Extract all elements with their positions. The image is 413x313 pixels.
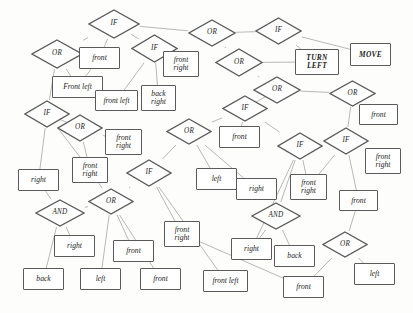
node-label: IF: [145, 169, 152, 177]
node-label: OR: [75, 124, 85, 132]
edge: [140, 26, 188, 30]
edge: [102, 215, 109, 268]
node-label: IF: [151, 45, 158, 53]
node-label: IF: [110, 20, 117, 28]
edge: [86, 69, 91, 76]
node-label: TURN LEFT: [306, 54, 327, 70]
edge: [302, 37, 350, 49]
value-node-front-right[interactable]: front right: [105, 129, 142, 155]
node-label: OR: [184, 128, 194, 136]
decision-node-if[interactable]: IF: [255, 17, 302, 45]
decision-node-or[interactable]: OR: [57, 114, 103, 142]
node-label: front: [126, 247, 141, 255]
node-label: right: [249, 185, 264, 193]
node-label: IF: [342, 137, 349, 145]
node-label: front: [153, 275, 168, 283]
node-label: back: [36, 275, 50, 283]
decision-node-or[interactable]: OR: [322, 231, 368, 258]
decision-node-or[interactable]: OR: [215, 48, 263, 77]
node-label: OR: [207, 29, 217, 37]
value-node-right[interactable]: right: [236, 178, 277, 200]
value-node-right[interactable]: right: [231, 238, 272, 260]
value-node-right[interactable]: right: [18, 169, 59, 191]
node-label: front: [296, 283, 311, 291]
node-label: front right: [83, 162, 98, 178]
edge: [104, 39, 107, 47]
edge: [162, 145, 176, 159]
decision-node-and[interactable]: AND: [251, 202, 301, 230]
node-label: OR: [272, 86, 282, 94]
value-node-left[interactable]: left: [80, 268, 121, 290]
edge: [314, 258, 332, 276]
decision-node-and[interactable]: AND: [35, 199, 85, 227]
edge: [212, 118, 222, 122]
value-node-front[interactable]: front: [79, 47, 120, 69]
value-node-front[interactable]: front: [113, 240, 154, 262]
node-label: AND: [53, 209, 68, 217]
node-label: front: [351, 197, 366, 205]
edge: [83, 142, 87, 157]
node-label: OR: [234, 59, 244, 67]
node-label: front right: [174, 56, 189, 72]
node-label: front: [232, 133, 247, 141]
value-node-front-left[interactable]: front left: [95, 90, 138, 111]
value-node-right[interactable]: right: [54, 235, 95, 257]
value-node-front[interactable]: front: [283, 276, 324, 298]
node-label: AND: [269, 212, 284, 220]
value-node-front[interactable]: front: [140, 268, 181, 290]
value-node-front-left[interactable]: front left: [203, 270, 248, 292]
decision-node-or[interactable]: OR: [188, 19, 236, 47]
node-label: MOVE: [359, 51, 382, 59]
value-node-back[interactable]: back: [274, 245, 315, 267]
decision-node-if[interactable]: IF: [126, 159, 172, 187]
value-node-front[interactable]: front: [339, 190, 378, 211]
edge: [349, 155, 356, 190]
value-node-front-right[interactable]: front right: [163, 51, 199, 77]
decision-node-if[interactable]: IF: [222, 95, 268, 122]
value-node-move[interactable]: MOVE: [350, 43, 391, 66]
value-node-turn-left[interactable]: TURN LEFT: [295, 49, 339, 75]
node-label: IF: [241, 105, 248, 113]
value-node-back-right[interactable]: back right: [141, 85, 176, 111]
edge: [303, 160, 306, 174]
edge: [156, 63, 158, 85]
value-node-front-right[interactable]: front right: [290, 174, 327, 200]
edge: [117, 215, 128, 240]
node-label: left: [96, 275, 106, 283]
value-node-front[interactable]: front: [219, 126, 260, 148]
edge: [349, 211, 355, 231]
node-label: front left: [103, 97, 129, 105]
node-label: front right: [376, 153, 391, 169]
node-label: right: [31, 176, 46, 184]
decision-node-or[interactable]: OR: [166, 118, 212, 145]
value-node-back[interactable]: back: [23, 268, 64, 290]
value-node-front-right[interactable]: front right: [72, 157, 108, 183]
edge: [46, 191, 51, 199]
node-label: IF: [275, 27, 282, 35]
node-label: right: [244, 245, 259, 253]
edge: [157, 187, 175, 221]
node-label: right: [67, 242, 82, 250]
decision-node-or[interactable]: OR: [329, 80, 376, 107]
edge: [236, 32, 255, 33]
decision-node-or[interactable]: OR: [88, 188, 134, 215]
value-node-left[interactable]: left: [196, 168, 237, 190]
node-label: back right: [151, 90, 166, 106]
value-node-front-right[interactable]: front right: [365, 148, 401, 174]
decision-node-if[interactable]: IF: [277, 132, 323, 160]
node-label: front: [92, 54, 107, 62]
decision-node-or[interactable]: OR: [31, 39, 83, 69]
edge: [265, 122, 280, 132]
node-label: OR: [52, 50, 62, 58]
node-label: front right: [175, 226, 190, 242]
edge: [282, 230, 289, 245]
value-node-front[interactable]: front: [359, 104, 398, 125]
node-label: front right: [301, 179, 316, 195]
value-node-front-right[interactable]: front right: [164, 221, 200, 247]
decision-node-if[interactable]: IF: [323, 127, 369, 155]
node-label: OR: [348, 90, 358, 98]
node-label: front left: [212, 277, 238, 285]
value-node-left[interactable]: left: [354, 263, 395, 285]
edge: [197, 145, 210, 168]
edge: [40, 128, 45, 169]
